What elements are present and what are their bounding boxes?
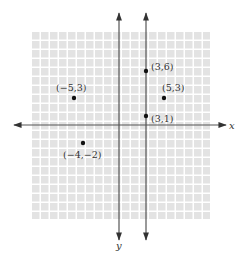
point-marker [162, 96, 166, 100]
plot-canvas: x y (−5,3)(3,6)(5,3)(3,1)(−4,−2) [0, 0, 244, 258]
x-axis-label: x [229, 120, 235, 131]
point-marker [144, 69, 148, 73]
point-label: (−4,−2) [63, 149, 101, 160]
coordinate-plane: x y (−5,3)(3,6)(5,3)(3,1)(−4,−2) [0, 0, 244, 258]
point-marker [144, 114, 148, 118]
point-marker [72, 96, 76, 100]
point-marker [81, 141, 85, 145]
point-label: (3,6) [151, 61, 174, 72]
y-axis-label: y [115, 240, 122, 251]
point-label: (3,1) [151, 113, 174, 124]
point-label: (−5,3) [56, 82, 86, 93]
point-label: (5,3) [162, 82, 185, 93]
